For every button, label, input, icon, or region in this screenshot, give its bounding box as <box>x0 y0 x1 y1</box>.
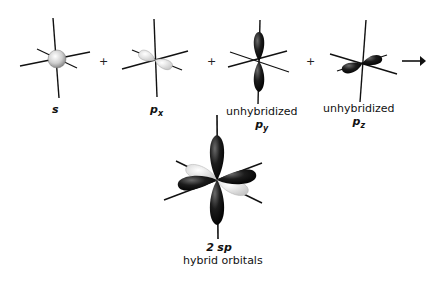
label-sp-line2: hybrid orbitals <box>183 254 255 267</box>
label-sp-symbol: sp <box>217 241 231 254</box>
label-sp-line1: 2 sp <box>183 241 255 254</box>
label-pz-caption: unhybridized <box>323 102 395 115</box>
yields-arrow-icon <box>402 56 426 66</box>
label-px: px <box>150 103 163 118</box>
label-px-subscript: x <box>158 109 163 118</box>
label-pz: unhybridized pz <box>323 102 395 130</box>
label-pz-subscript: z <box>360 121 365 130</box>
px-orbital <box>122 19 188 97</box>
sp-hybrid-orbitals <box>164 115 262 239</box>
plus-operator-3: + <box>306 55 315 68</box>
label-pz-symbol-wrap: pz <box>323 115 395 130</box>
label-sp-count: 2 <box>206 241 214 254</box>
plus-operator-2: + <box>207 55 216 68</box>
label-sp-hybrid: 2 sp hybrid orbitals <box>183 241 255 267</box>
pz-orbital <box>330 20 397 102</box>
label-px-symbol: p <box>150 103 158 116</box>
label-py: unhybridized py <box>226 105 298 133</box>
label-py-caption: unhybridized <box>226 105 298 118</box>
py-orbital <box>228 20 289 104</box>
plus-operator-1: + <box>99 55 108 68</box>
label-py-symbol: p <box>255 118 263 131</box>
s-orbital <box>20 18 90 98</box>
label-py-symbol-wrap: py <box>226 118 298 133</box>
label-py-subscript: y <box>263 124 268 133</box>
label-s: s <box>52 103 59 116</box>
